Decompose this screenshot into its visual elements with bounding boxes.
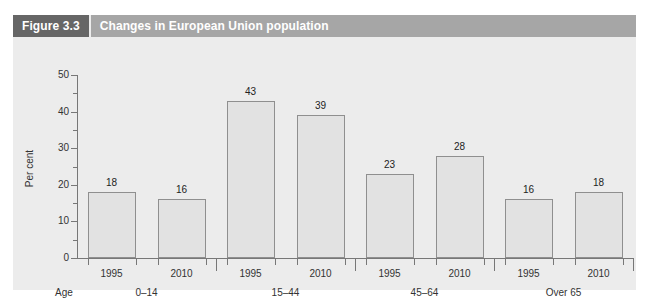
bar-value-label: 16: [505, 184, 553, 195]
bar-value-label: 23: [366, 159, 414, 170]
bar-value-label: 16: [158, 184, 206, 195]
bar-value-label: 18: [88, 177, 136, 188]
y-axis-tick-minor: [73, 203, 78, 204]
figure-container: Figure 3.3 Changes in European Union pop…: [13, 15, 636, 290]
x-axis-group-separator: [216, 258, 217, 271]
x-axis-tick: [88, 258, 89, 265]
x-axis-group-label: Over 65: [494, 287, 633, 298]
y-axis-tick-major: [71, 112, 78, 113]
x-axis-tick: [505, 258, 506, 265]
x-axis-year-label: 1995: [505, 268, 553, 279]
figure-number-badge: Figure 3.3: [13, 15, 89, 37]
chart-bar: [575, 192, 623, 258]
figure-title: Changes in European Union population: [91, 15, 329, 37]
x-axis-tick: [414, 258, 415, 265]
x-axis-year-label: 2010: [158, 268, 206, 279]
x-axis-tick: [158, 258, 159, 265]
y-axis-tick-minor: [73, 130, 78, 131]
y-axis-tick-major: [71, 258, 78, 259]
x-axis-tick: [575, 258, 576, 265]
x-axis-tick: [136, 258, 137, 265]
x-axis-year-label: 1995: [88, 268, 136, 279]
y-axis-tick-label: 50: [35, 69, 69, 80]
figure-titlebar: Figure 3.3 Changes in European Union pop…: [13, 15, 636, 37]
y-axis-tick-minor: [73, 93, 78, 94]
x-axis-tick: [275, 258, 276, 265]
y-axis-tick-label: 30: [35, 142, 69, 153]
x-axis-year-label: 1995: [227, 268, 275, 279]
x-axis-tick: [436, 258, 437, 265]
bar-value-label: 28: [436, 141, 484, 152]
x-axis-end-tick: [633, 258, 634, 271]
x-axis-group-label: 0–14: [77, 287, 216, 298]
x-axis-year-label: 2010: [575, 268, 623, 279]
y-axis-tick-major: [71, 185, 78, 186]
y-axis-tick-minor: [73, 240, 78, 241]
chart-bar: [158, 199, 206, 258]
chart-bar: [436, 156, 484, 258]
x-axis-tick: [297, 258, 298, 265]
y-axis-tick-major: [71, 148, 78, 149]
x-axis-year-label: 2010: [297, 268, 345, 279]
x-axis-group-label: 45–64: [355, 287, 494, 298]
y-axis-tick-label: 40: [35, 106, 69, 117]
chart-bar: [227, 101, 275, 258]
y-axis-tick-label: 10: [35, 215, 69, 226]
y-axis-tick-minor: [73, 167, 78, 168]
x-axis-group-label: 15–44: [216, 287, 355, 298]
chart-bar: [505, 199, 553, 258]
y-axis-tick-label: 0: [35, 252, 69, 263]
x-axis-tick: [553, 258, 554, 265]
x-axis-year-label: 1995: [366, 268, 414, 279]
y-axis-tick-major: [71, 75, 78, 76]
y-axis-tick-label: 20: [35, 179, 69, 190]
y-axis-tick-major: [71, 221, 78, 222]
x-axis-group-separator: [494, 258, 495, 271]
x-axis-group-separator: [355, 258, 356, 271]
bar-value-label: 39: [297, 100, 345, 111]
x-axis-tick: [206, 258, 207, 265]
x-axis-tick: [623, 258, 624, 265]
x-axis-tick: [345, 258, 346, 265]
bar-value-label: 43: [227, 86, 275, 97]
chart-bar: [297, 115, 345, 258]
y-axis-label: Per cent: [24, 134, 35, 204]
x-axis-tick: [227, 258, 228, 265]
chart-bar: [366, 174, 414, 258]
chart-bar: [88, 192, 136, 258]
bar-value-label: 18: [575, 177, 623, 188]
chart-plot-area: Per cent Age 010203040501819951620100–14…: [13, 37, 636, 290]
x-axis-year-label: 2010: [436, 268, 484, 279]
x-axis-tick: [484, 258, 485, 265]
x-axis-tick: [366, 258, 367, 265]
